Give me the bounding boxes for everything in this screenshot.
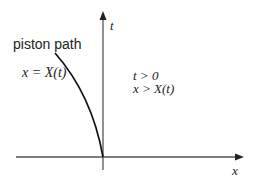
t-axis-arrowhead-icon <box>100 11 107 20</box>
piston-path-diagram: piston path x = X(t) t x t > 0 x > X(t) <box>0 0 254 183</box>
t-axis-label: t <box>110 18 114 33</box>
curve-title-label: piston path <box>13 36 82 52</box>
x-axis-label: x <box>231 163 238 178</box>
x-axis-arrowhead-icon <box>235 154 244 161</box>
curve-equation-label: x = X(t) <box>21 65 67 81</box>
condition-x-label: x > X(t) <box>132 81 174 96</box>
